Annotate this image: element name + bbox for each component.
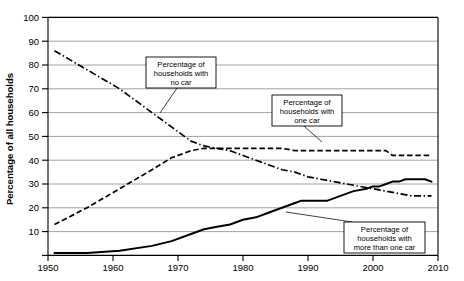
annotation-no-car: Percentage of households with no car: [146, 57, 216, 88]
x-tick-label: 1970: [167, 262, 188, 273]
annotation-line: Percentage of: [157, 60, 205, 69]
annotation-line: more than one car: [354, 243, 416, 252]
leader-line-multi-car: [286, 212, 352, 222]
y-axis-title: Percentage of all households: [4, 73, 15, 205]
annotation-line: households with: [357, 234, 411, 243]
annotation-one-car: Percentage of households with one car: [272, 95, 342, 126]
annotation-line: one car: [294, 116, 320, 125]
annotation-line: households with: [154, 69, 208, 78]
y-axis-labels: 100 90 80 70 60 50 40 30 20 10: [23, 12, 39, 237]
y-tick-label: 80: [28, 59, 39, 70]
y-tick-label: 60: [28, 107, 39, 118]
y-tick-label: 20: [28, 202, 39, 213]
annotation-line: Percentage of: [283, 98, 331, 107]
grid-lines: [48, 17, 438, 231]
x-axis-ticks: [48, 255, 438, 261]
line-chart: Percentage of all households: [0, 0, 464, 281]
x-tick-label: 2010: [427, 262, 448, 273]
series-line-no-car: [55, 51, 432, 196]
annotation-line: Percentage of: [361, 225, 409, 234]
chart-container: Percentage of all households: [0, 0, 464, 281]
annotation-line: no car: [170, 78, 192, 87]
annotation-line: households with: [280, 107, 334, 116]
annotation-more-than-one-car: Percentage of households with more than …: [344, 222, 425, 253]
y-tick-label: 70: [28, 83, 39, 94]
x-tick-label: 1950: [37, 262, 58, 273]
leader-line-no-car: [160, 88, 177, 113]
y-tick-label: 50: [28, 131, 39, 142]
y-tick-label: 90: [28, 36, 39, 47]
x-tick-label: 1990: [297, 262, 318, 273]
x-tick-label: 1980: [232, 262, 253, 273]
leader-line-one-car: [304, 126, 322, 142]
x-axis-labels: 1950 1960 1970 1980 1990 2000 2010: [37, 262, 448, 273]
x-tick-label: 2000: [362, 262, 383, 273]
y-tick-label: 100: [23, 12, 39, 23]
y-tick-label: 40: [28, 155, 39, 166]
y-tick-label: 10: [28, 226, 39, 237]
y-tick-label: 30: [28, 178, 39, 189]
y-axis-ticks: [42, 17, 48, 255]
x-tick-label: 1960: [102, 262, 123, 273]
